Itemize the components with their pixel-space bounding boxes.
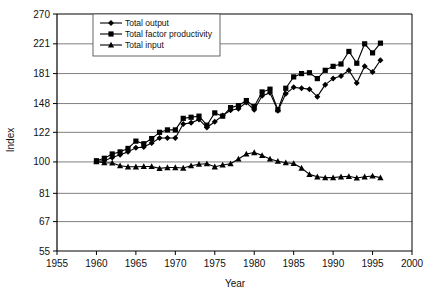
- x-tick-label: 1970: [164, 258, 187, 269]
- y-tick-label: 122: [33, 127, 50, 138]
- data-point-marker: [291, 74, 296, 79]
- y-tick-label: 270: [33, 9, 50, 20]
- data-point-marker: [331, 64, 336, 69]
- y-tick-label: 181: [33, 68, 50, 79]
- data-point-marker: [212, 110, 217, 115]
- legend-item-label: Total factor productivity: [125, 29, 213, 39]
- data-point-marker: [338, 61, 343, 66]
- data-point-marker: [275, 107, 280, 112]
- data-point-marker: [283, 86, 288, 91]
- y-axis-title: Index: [5, 128, 16, 152]
- data-point-marker: [299, 71, 304, 76]
- data-point-marker: [118, 149, 123, 154]
- chart-container: 556781100122148181221270 195519601965197…: [0, 0, 433, 292]
- x-tick-label: 1985: [283, 258, 306, 269]
- data-point-marker: [228, 105, 233, 110]
- data-point-marker: [378, 41, 383, 46]
- data-point-marker: [315, 76, 320, 81]
- x-tick-label: 1960: [85, 258, 108, 269]
- legend-item-label: Total output: [125, 18, 170, 28]
- data-point-marker: [141, 141, 146, 146]
- data-point-marker: [244, 98, 249, 103]
- data-point-marker: [165, 127, 170, 132]
- x-tick-label: 1990: [322, 258, 345, 269]
- data-point-marker: [220, 114, 225, 119]
- data-point-marker: [181, 116, 186, 121]
- x-tick-label: 1995: [361, 258, 384, 269]
- data-point-marker: [346, 49, 351, 54]
- data-point-marker: [354, 61, 359, 66]
- data-point-marker: [236, 103, 241, 108]
- data-point-marker: [196, 114, 201, 119]
- y-tick-label: 81: [39, 188, 51, 199]
- data-point-marker: [173, 127, 178, 132]
- data-point-marker: [189, 115, 194, 120]
- data-point-marker: [149, 136, 154, 141]
- chart-legend: Total outputTotal factor productivityTot…: [93, 14, 220, 56]
- data-point-marker: [252, 104, 257, 109]
- x-tick-label: 2000: [401, 258, 424, 269]
- index-line-chart: 556781100122148181221270 195519601965197…: [0, 0, 433, 292]
- x-tick-label: 1980: [243, 258, 266, 269]
- legend-marker-square: [108, 31, 113, 36]
- data-point-marker: [110, 151, 115, 156]
- data-point-marker: [362, 41, 367, 46]
- data-point-marker: [133, 139, 138, 144]
- data-point-marker: [307, 70, 312, 75]
- data-point-marker: [370, 50, 375, 55]
- data-point-marker: [267, 87, 272, 92]
- x-tick-label: 1955: [46, 258, 69, 269]
- data-point-marker: [157, 130, 162, 135]
- legend-item-label: Total input: [125, 40, 164, 50]
- x-tick-label: 1975: [204, 258, 227, 269]
- data-point-marker: [204, 123, 209, 128]
- y-tick-label: 148: [33, 98, 50, 109]
- y-tick-label: 100: [33, 156, 50, 167]
- x-tick-label: 1965: [125, 258, 148, 269]
- y-tick-label: 221: [33, 38, 50, 49]
- data-point-marker: [125, 146, 130, 151]
- x-axis-title: Year: [225, 278, 246, 289]
- y-tick-label: 67: [39, 216, 51, 227]
- data-point-marker: [323, 68, 328, 73]
- data-point-marker: [260, 89, 265, 94]
- y-tick-label: 55: [39, 246, 51, 257]
